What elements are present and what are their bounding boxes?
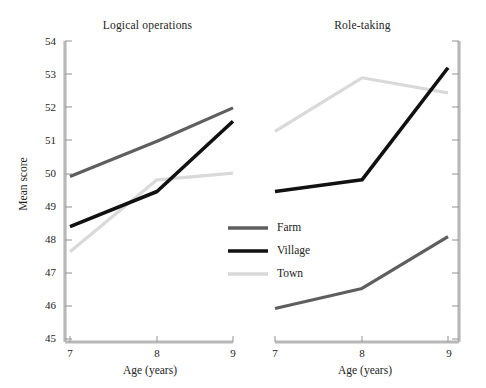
series-line-village-panel-role-taking	[275, 68, 448, 192]
figure-container: Logical operations Role-taking Mean scor…	[0, 0, 486, 388]
left-panel-axes	[65, 41, 233, 342]
legend-swatches	[228, 228, 268, 274]
plot-svg	[0, 0, 486, 388]
right-panel-axes	[275, 41, 459, 342]
series-line-town-panel-role-taking	[275, 78, 448, 132]
series-line-town-panel-logical-operations	[70, 173, 233, 252]
series-line-farm-panel-role-taking	[275, 237, 448, 309]
